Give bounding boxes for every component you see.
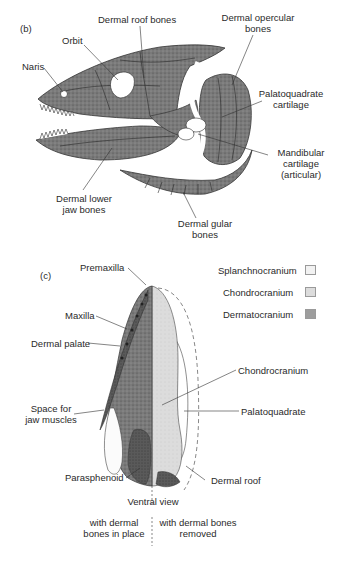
view-title: Ventral view xyxy=(110,496,196,507)
label-palatoquadrate-cartilage: Palatoquadrate cartilage xyxy=(253,88,329,110)
label-orbit: Orbit xyxy=(62,35,83,46)
label-chondrocranium: Chondrocranium xyxy=(238,365,308,376)
legend-swatch-chondrocranium xyxy=(305,287,316,297)
label-palatoquadrate: Palatoquadrate xyxy=(241,406,305,417)
skull-lateral-view xyxy=(36,45,252,195)
label-space-for-jaw-muscles: Space for jaw muscles xyxy=(22,403,80,425)
label-dermal-gular-bones: Dermal gular bones xyxy=(170,218,240,240)
panel-tag-c: (c) xyxy=(40,270,51,281)
label-parasphenoid: Parasphenoid xyxy=(65,472,124,483)
label-dermal-roof-bones: Dermal roof bones xyxy=(98,14,176,25)
label-naris: Naris xyxy=(22,61,44,72)
label-dermal-roof: Dermal roof xyxy=(211,475,261,486)
legend-label-splanchnocranium: Splanchnocranium xyxy=(218,265,297,276)
legend-label-dermatocranium: Dermatocranium xyxy=(223,309,293,320)
legend-swatch-dermatocranium xyxy=(305,309,316,319)
panel-tag-b: (b) xyxy=(20,23,32,34)
label-mandibular-cartilage: Mandibular cartilage (articular) xyxy=(266,147,336,180)
label-dermal-opercular-bones: Dermal opercular bones xyxy=(218,12,298,34)
label-dermal-palate: Dermal palate xyxy=(31,338,90,349)
caption-with-dermal-bones: with dermal bones in place xyxy=(82,517,146,539)
legend-swatch-splanchnocranium xyxy=(305,265,316,275)
caption-dermal-bones-removed: with dermal bones removed xyxy=(158,517,238,539)
label-maxilla: Maxilla xyxy=(65,310,95,321)
label-dermal-lower-jaw-bones: Dermal lower jaw bones xyxy=(44,193,124,215)
skull-ventral-view xyxy=(100,286,199,546)
legend-label-chondrocranium: Chondrocranium xyxy=(223,287,293,298)
label-premaxilla: Premaxilla xyxy=(80,262,124,273)
